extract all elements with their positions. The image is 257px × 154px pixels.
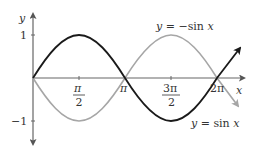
svg-text:3π: 3π (163, 82, 177, 95)
x-tick-three-pi-half: 3π 2 (162, 82, 180, 109)
neg-sin-annotation: y = −sin x (155, 20, 214, 33)
x-tick-pi: π (119, 82, 128, 95)
svg-text:2: 2 (168, 96, 175, 109)
x-tick-two-pi: 2π (210, 82, 224, 95)
y-tick-1: 1 (20, 29, 27, 42)
sine-graph: y x 1 −1 π 2 π 3π 2 2π y = −sin x y = si… (0, 0, 257, 154)
svg-text:π: π (73, 82, 82, 95)
x-axis-label: x (236, 84, 243, 97)
sin-annotation: y = sin x (190, 117, 240, 130)
svg-text:2: 2 (76, 96, 83, 109)
y-tick-neg1: −1 (11, 115, 27, 128)
y-axis-label: y (18, 12, 26, 25)
x-tick-pi-half: π 2 (73, 82, 85, 109)
